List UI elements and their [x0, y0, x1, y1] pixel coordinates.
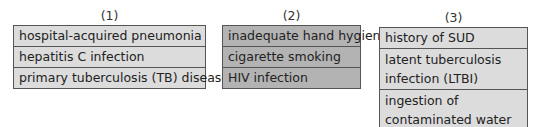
list-item: cigarette smoking [223, 47, 360, 68]
list-item: inadequate hand hygiene [223, 26, 360, 47]
group-2-box: inadequate hand hygiene cigarette smokin… [222, 25, 361, 89]
group-1-box: hospital-acquired pneumonia hepatitis C … [13, 25, 206, 89]
list-item: ingestion of contaminated water [380, 90, 527, 127]
list-item: hospital-acquired pneumonia [14, 26, 205, 47]
list-item: HIV infection [223, 68, 360, 88]
list-item: hepatitis C infection [14, 47, 205, 68]
group-1-label: (1) [13, 8, 206, 24]
group-3: (3) history of SUD latent tuberculosis i… [379, 10, 528, 127]
group-2-label: (2) [222, 8, 361, 24]
group-2: (2) inadequate hand hygiene cigarette sm… [222, 8, 361, 89]
list-item: history of SUD [380, 28, 527, 49]
list-item: latent tuberculosis infection (LTBI) [380, 49, 527, 90]
group-3-box: history of SUD latent tuberculosis infec… [379, 27, 528, 127]
group-3-label: (3) [379, 10, 528, 26]
group-1: (1) hospital-acquired pneumonia hepatiti… [13, 8, 206, 89]
list-item: primary tuberculosis (TB) disease [14, 68, 205, 88]
